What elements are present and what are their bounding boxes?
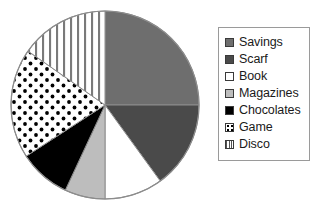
swatch-solid-gray-icon — [225, 38, 234, 47]
legend-label: Magazines — [239, 87, 299, 100]
legend-label: Scarf — [239, 53, 268, 66]
legend-label: Game — [239, 121, 273, 134]
swatch-solid-white-icon — [225, 72, 234, 81]
legend-item-game[interactable]: Game — [225, 119, 309, 135]
pie-slice-savings — [105, 11, 199, 105]
legend-item-chocolates[interactable]: Chocolates — [225, 102, 309, 118]
legend-item-disco[interactable]: Disco — [225, 136, 309, 152]
swatch-solid-black-icon — [225, 106, 234, 115]
swatch-dots-icon — [225, 123, 234, 132]
swatch-solid-darkgray-icon — [225, 55, 234, 64]
legend-label: Disco — [239, 138, 270, 151]
legend-label: Chocolates — [239, 104, 301, 117]
legend-item-book[interactable]: Book — [225, 68, 309, 84]
legend-item-scarf[interactable]: Scarf — [225, 51, 309, 67]
swatch-vertical-stripes-icon — [225, 140, 234, 149]
legend-item-list: SavingsScarfBookMagazinesChocolatesGameD… — [225, 34, 309, 152]
pie-chart-area — [0, 0, 210, 208]
chart-legend: SavingsScarfBookMagazinesChocolatesGameD… — [218, 27, 310, 161]
legend-item-magazines[interactable]: Magazines — [225, 85, 309, 101]
legend-item-savings[interactable]: Savings — [225, 34, 309, 50]
legend-label: Book — [239, 70, 267, 83]
pie-svg — [0, 0, 210, 208]
pie-chart-figure: SavingsScarfBookMagazinesChocolatesGameD… — [0, 0, 327, 208]
swatch-solid-lightgray-icon — [225, 89, 234, 98]
legend-label: Savings — [239, 36, 283, 49]
pie-slices-group — [11, 11, 199, 199]
